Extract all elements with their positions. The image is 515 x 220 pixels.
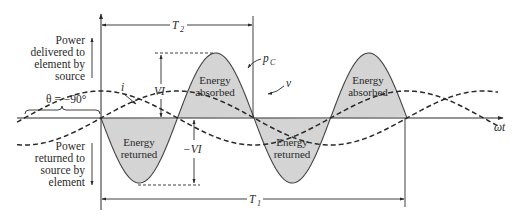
- absorbed-label-2-line2: absorbed: [348, 86, 388, 98]
- absorbed-label-1-line2: absorbed: [195, 86, 235, 98]
- v-pointer: v: [268, 77, 292, 94]
- returned-label-1-line1: Energy: [123, 136, 155, 148]
- returned-line-2: returned to: [35, 152, 85, 164]
- theta-label: θ = −90°: [46, 93, 87, 105]
- pc-subscript: C: [270, 58, 276, 67]
- i-label: i: [121, 81, 124, 93]
- absorbed-label-1-line1: Energy: [199, 74, 231, 86]
- neg-vi-label: −VI: [183, 143, 203, 155]
- t1-label: T: [249, 193, 257, 205]
- delivered-annotation: Power delivered to element by source: [30, 34, 92, 82]
- delivered-line-1: Power: [56, 34, 86, 46]
- returned-line-1: Power: [56, 140, 86, 152]
- v-label: v: [286, 77, 292, 89]
- vi-label: VI: [154, 85, 166, 97]
- i-pointer: i: [121, 81, 136, 104]
- delivered-line-4: source: [55, 70, 85, 82]
- t2-subscript: 2: [180, 25, 184, 34]
- delivered-line-2: delivered to: [30, 46, 85, 58]
- pc-pointer: p C: [248, 52, 276, 68]
- theta-brace: θ = −90°: [25, 93, 100, 114]
- pc-label: p: [262, 52, 269, 65]
- absorbed-label-2-line1: Energy: [352, 74, 384, 86]
- capacitive-power-diagram: T 2 T 1 VI −VI θ = −90° i v p C: [0, 0, 515, 220]
- returned-label-2-line2: returned: [274, 148, 311, 160]
- returned-annotation: Power returned to source by element: [35, 140, 92, 188]
- returned-label-1-line2: returned: [121, 148, 158, 160]
- returned-label-2-line1: Energy: [276, 136, 308, 148]
- diagram-canvas: T 2 T 1 VI −VI θ = −90° i v p C: [0, 0, 515, 220]
- t2-label: T: [172, 19, 180, 31]
- t1-subscript: 1: [257, 199, 261, 208]
- omega-t-label: ωt: [494, 121, 506, 133]
- returned-line-4: element: [49, 176, 86, 188]
